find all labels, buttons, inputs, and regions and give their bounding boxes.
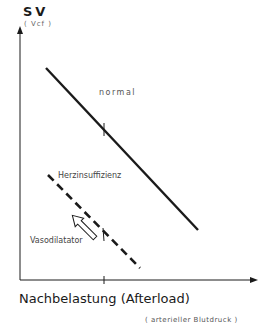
y-axis-unit: ( Vcf )	[24, 20, 52, 28]
diagram-canvas	[0, 0, 266, 326]
x-axis-unit: ( arterieller Blutdruck )	[145, 316, 238, 324]
vasodilator-label: Vasodilatator	[30, 236, 83, 245]
herzinsuffizienz-curve-label: Herzinsuffizienz	[58, 171, 121, 180]
herzinsuffizienz-curve	[48, 175, 140, 268]
normal-curve-label: normal	[99, 88, 136, 97]
x-axis-label: Nachbelastung (Afterload)	[19, 291, 190, 306]
y-axis-label: SV	[23, 4, 48, 19]
